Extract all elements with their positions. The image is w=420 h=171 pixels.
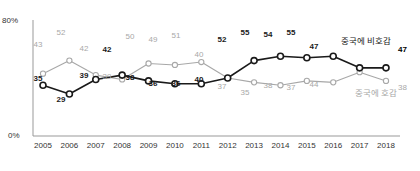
- unfavorable-value-5: 36: [144, 79, 162, 88]
- unfavorable-value-11: 55: [282, 28, 300, 37]
- data-point-marker[interactable]: [199, 59, 204, 64]
- unfavorable-value-7: 40: [190, 75, 208, 84]
- data-point-marker[interactable]: [225, 75, 231, 81]
- x-axis-tick-2007: 2007: [82, 141, 110, 150]
- data-point-marker[interactable]: [383, 65, 389, 71]
- x-axis-tick-2006: 2006: [55, 141, 83, 150]
- x-axis-tick-2014: 2014: [266, 141, 294, 150]
- favorable-value-10: 38: [259, 81, 277, 90]
- data-point-marker[interactable]: [251, 80, 256, 85]
- data-point-marker[interactable]: [357, 65, 363, 71]
- favorable-value-8: 37: [213, 82, 231, 91]
- unfavorable-value-12: 47: [305, 42, 323, 51]
- x-axis-tick-2012: 2012: [214, 141, 242, 150]
- data-point-marker[interactable]: [67, 58, 72, 63]
- unfavorable-value-9: 55: [236, 28, 254, 37]
- unfavorable-value-8: 52: [213, 35, 231, 44]
- data-point-marker[interactable]: [40, 82, 46, 88]
- unfavorable-value-10: 54: [259, 30, 277, 39]
- unfavorable-value-1: 29: [52, 95, 70, 104]
- favorable-value-0: 43: [29, 40, 47, 49]
- favorable-value-6: 51: [167, 31, 185, 40]
- unfavorable-value-3: 42: [98, 45, 116, 54]
- unfavorable-value-0: 35: [29, 74, 47, 83]
- favorable-value-11: 37: [282, 83, 300, 92]
- x-axis-tick-2008: 2008: [108, 141, 136, 150]
- data-point-marker[interactable]: [172, 62, 177, 67]
- x-axis-tick-2015: 2015: [293, 141, 321, 150]
- data-point-marker[interactable]: [383, 78, 388, 83]
- x-axis-tick-2016: 2016: [319, 141, 347, 150]
- favorable-value-2: 42: [75, 44, 93, 53]
- favorable-value-12: 44: [305, 80, 323, 89]
- unfavorable-value-4: 38: [121, 73, 139, 82]
- series-label-unfavorable: 중국에 비호감: [341, 36, 391, 46]
- series-label-favorable: 중국에 호감: [355, 88, 397, 98]
- y-axis-bottom-tick: 0%: [8, 131, 20, 140]
- data-point-marker[interactable]: [304, 55, 310, 61]
- x-axis-tick-2005: 2005: [29, 141, 57, 150]
- favorable-value-9: 35: [236, 88, 254, 97]
- data-point-marker[interactable]: [277, 53, 283, 59]
- x-axis-tick-2017: 2017: [346, 141, 374, 150]
- unfavorable-value-2: 39: [75, 71, 93, 80]
- data-point-marker[interactable]: [331, 80, 336, 85]
- china-favorability-line-chart: 80% 0% 200520062007200820092010201120122…: [0, 0, 420, 171]
- data-point-marker[interactable]: [146, 61, 151, 66]
- data-point-marker[interactable]: [330, 53, 336, 59]
- x-axis-tick-2009: 2009: [135, 141, 163, 150]
- favorable-value-3: 39: [98, 72, 116, 81]
- favorable-value-7: 40: [190, 50, 208, 59]
- series-end-value-unfavorable: 47: [398, 45, 407, 54]
- x-axis-tick-2010: 2010: [161, 141, 189, 150]
- x-axis-tick-2011: 2011: [187, 141, 215, 150]
- x-axis-tick-2013: 2013: [240, 141, 268, 150]
- unfavorable-value-6: 36: [167, 79, 185, 88]
- series-end-value-favorable: 38: [398, 83, 407, 92]
- favorable-value-1: 52: [52, 28, 70, 37]
- favorable-value-5: 49: [144, 35, 162, 44]
- favorable-value-4: 50: [121, 32, 139, 41]
- data-point-marker[interactable]: [251, 58, 257, 64]
- y-axis-top-tick: 80%: [2, 16, 18, 25]
- x-axis-tick-2018: 2018: [372, 141, 400, 150]
